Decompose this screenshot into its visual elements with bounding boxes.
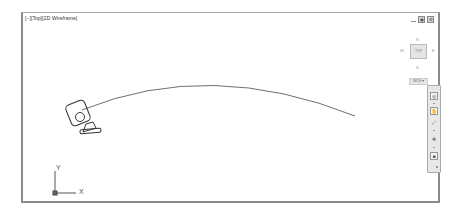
camera-glyph-icon[interactable]	[65, 99, 102, 134]
arc-curve[interactable]	[82, 85, 355, 116]
drawing-canvas	[0, 0, 458, 211]
ucs-icon	[53, 171, 76, 195]
